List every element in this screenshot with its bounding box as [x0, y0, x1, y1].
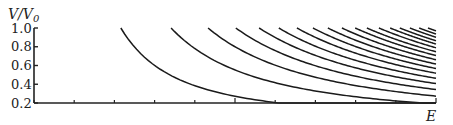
y-tick-label: 0.6: [11, 58, 32, 73]
y-tick-labels: 0.20.40.60.81.0: [11, 21, 32, 111]
x-axis-title: E: [425, 108, 436, 124]
y-axis-title: V/V0: [8, 6, 40, 24]
chart-canvas: 0.20.40.60.81.0 V/V0 E: [0, 0, 453, 125]
curve: [208, 28, 436, 96]
y-tick-label: 0.8: [11, 39, 32, 54]
curve: [428, 28, 436, 31]
y-tick-label: 1.0: [11, 21, 32, 36]
y-tick-label: 0.2: [11, 96, 32, 111]
y-tick-label: 0.4: [11, 77, 32, 92]
curve: [328, 28, 436, 64]
curve: [390, 28, 436, 44]
curve-family: [121, 28, 436, 103]
curve: [355, 28, 436, 56]
